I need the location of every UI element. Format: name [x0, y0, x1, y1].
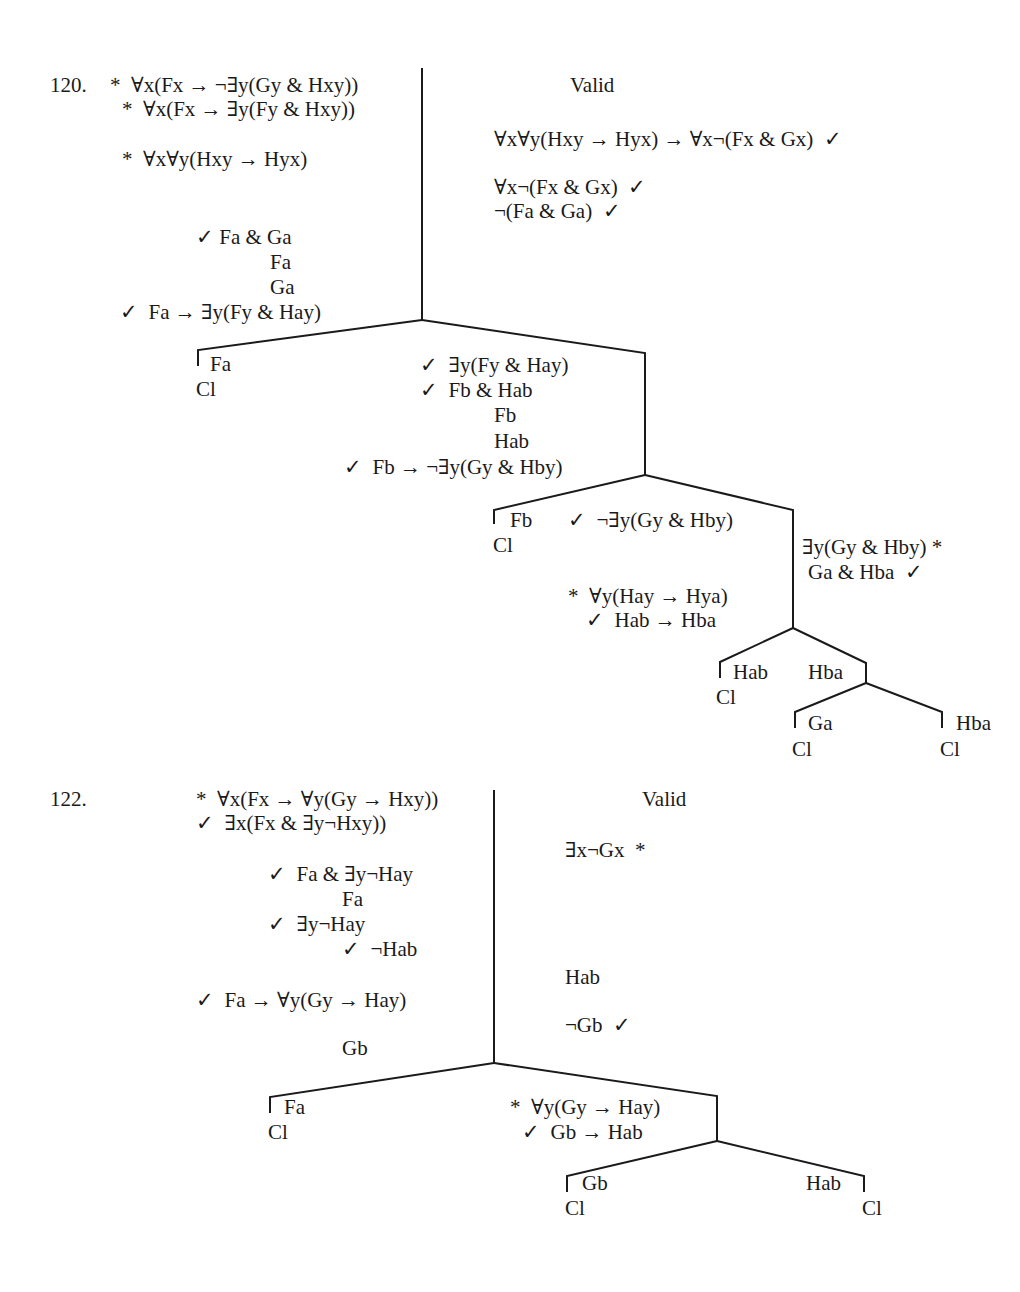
derived-formula: Fa: [342, 887, 363, 911]
closed-marker: Cl: [940, 737, 960, 761]
branch-formula: Ga & Hba ✓: [808, 560, 923, 584]
derived-formula: ∀x¬(Fx & Gx) ✓: [494, 175, 646, 199]
derived-formula: ✓ Fa → ∀y(Gy → Hay): [196, 988, 406, 1012]
closed-marker: Cl: [716, 685, 736, 709]
branch-formula: Fa: [284, 1095, 305, 1119]
negated-conclusion: ∀x∀y(Hxy → Hyx) → ∀x¬(Fx & Gx) ✓: [494, 127, 842, 151]
derived-formula: Ga: [270, 275, 295, 299]
branch-formula: Fa: [210, 352, 231, 376]
branch-formula: Hab: [806, 1171, 841, 1195]
branch-formula: ✓ Fb & Hab: [420, 378, 533, 402]
derived-formula: ¬Gb ✓: [565, 1013, 631, 1037]
branch-formula: * ∀y(Gy → Hay): [510, 1095, 660, 1119]
status-label: Valid: [642, 787, 686, 811]
problem-number: 120.: [50, 73, 87, 97]
closed-marker: Cl: [565, 1196, 585, 1220]
closed-marker: Cl: [862, 1196, 882, 1220]
branch-formula: ∃y(Gy & Hby) *: [802, 535, 942, 559]
closed-marker: Cl: [268, 1120, 288, 1144]
derived-formula: ✓ Fa → ∃y(Fy & Hay): [120, 300, 321, 324]
derived-formula: ✓ Fa & Ga: [196, 225, 292, 249]
derived-formula: ✓ Fa & ∃y¬Hay: [268, 862, 413, 886]
derived-formula: ✓ ∃y¬Hay: [268, 912, 365, 936]
closed-marker: Cl: [493, 533, 513, 557]
branch-formula: Hba: [808, 660, 843, 684]
premise: * ∀x(Fx → ¬∃y(Gy & Hxy)): [110, 73, 358, 97]
branch-formula: ✓ ∃y(Fy & Hay): [420, 353, 568, 377]
branch-formula: ✓ Gb → Hab: [522, 1120, 643, 1144]
premise: ✓ ∃x(Fx & ∃y¬Hxy)): [196, 811, 386, 835]
branch-122-2-right: [717, 1141, 864, 1192]
derived-formula: Hab: [565, 965, 600, 989]
branch-formula: ✓ Fb → ¬∃y(Gy & Hby): [344, 455, 563, 479]
branch-formula: Hba: [956, 711, 991, 735]
closed-marker: Cl: [792, 737, 812, 761]
derived-formula: Gb: [342, 1036, 368, 1060]
derived-formula: Fa: [270, 250, 291, 274]
branch-formula: Fb: [510, 508, 532, 532]
derived-formula: ¬(Fa & Ga) ✓: [494, 199, 621, 223]
derived-formula: ✓ ¬Hab: [342, 937, 417, 961]
branch-formula: Hab: [733, 660, 768, 684]
branch-120-1-left: [198, 320, 422, 366]
negated-conclusion: ∃x¬Gx *: [565, 838, 645, 862]
status-label: Valid: [570, 73, 614, 97]
premise: * ∀x(Fx → ∀y(Gy → Hxy)): [196, 787, 438, 811]
branch-formula: Fb: [494, 403, 516, 427]
closed-marker: Cl: [196, 377, 216, 401]
branch-formula: ✓ Hab → Hba: [586, 608, 716, 632]
branch-formula: Ga: [808, 711, 833, 735]
branch-120-4-right: [866, 683, 942, 728]
branch-formula: Hab: [494, 429, 529, 453]
premise: * ∀x∀y(Hxy → Hyx): [122, 147, 307, 171]
branch-formula: ✓ ¬∃y(Gy & Hby): [568, 508, 733, 532]
branch-formula: Gb: [582, 1171, 608, 1195]
premise: * ∀x(Fx → ∃y(Fy & Hxy)): [122, 97, 355, 121]
branch-formula: * ∀y(Hay → Hya): [568, 584, 728, 608]
problem-number: 122.: [50, 787, 87, 811]
